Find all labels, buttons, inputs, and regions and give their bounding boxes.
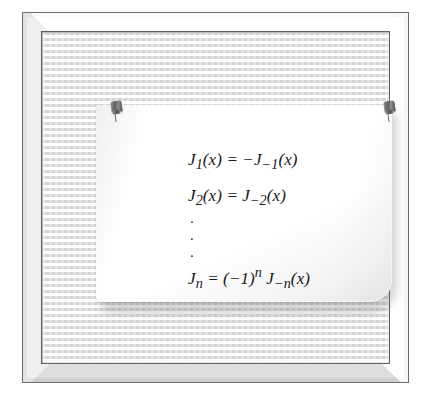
equation-n: Jn = (−1)n J−n(x) bbox=[188, 265, 388, 290]
frame-inner-rebate: J1(x) = −J−1(x) J2(x) = J−2(x) . . . Jn … bbox=[41, 31, 390, 364]
equation-block: J1(x) = −J−1(x) J2(x) = J−2(x) . . . Jn … bbox=[188, 151, 388, 290]
ellipsis-dot: . bbox=[190, 227, 388, 244]
equation-2: J2(x) = J−2(x) bbox=[188, 187, 388, 208]
framed-board-scene: J1(x) = −J−1(x) J2(x) = J−2(x) . . . Jn … bbox=[0, 0, 431, 397]
ellipsis-dot: . bbox=[190, 244, 388, 261]
pushpin-needle-icon bbox=[115, 113, 117, 122]
picture-frame: J1(x) = −J−1(x) J2(x) = J−2(x) . . . Jn … bbox=[22, 12, 409, 383]
right-pushpin[interactable] bbox=[384, 101, 395, 123]
left-pushpin[interactable] bbox=[111, 101, 122, 123]
pinned-note[interactable]: J1(x) = −J−1(x) J2(x) = J−2(x) . . . Jn … bbox=[96, 105, 392, 302]
pushpin-needle-icon bbox=[388, 113, 390, 122]
equation-1: J1(x) = −J−1(x) bbox=[188, 151, 388, 172]
vertical-ellipsis: . . . bbox=[190, 210, 388, 261]
ellipsis-dot: . bbox=[190, 210, 388, 227]
cork-board-surface: J1(x) = −J−1(x) J2(x) = J−2(x) . . . Jn … bbox=[43, 33, 388, 362]
